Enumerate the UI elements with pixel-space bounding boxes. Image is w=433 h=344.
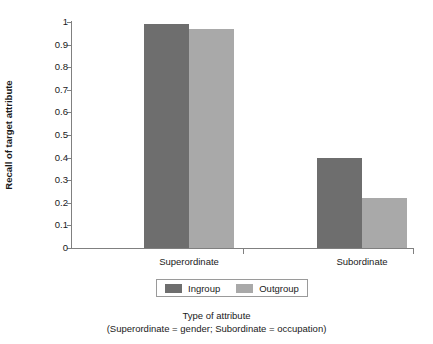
- y-axis-tick-label: 0.4: [55, 151, 68, 164]
- x-axis-title: Type of attribute (Superordinate = gende…: [0, 309, 433, 335]
- x-axis-tick-mark: [243, 249, 244, 254]
- y-axis-tick-label: 0.9: [55, 38, 68, 51]
- y-axis-tick-label: 0.3: [55, 173, 68, 186]
- legend-swatch-icon: [236, 284, 253, 293]
- plot-area: 00.10.20.30.40.50.60.70.80.91: [72, 22, 413, 248]
- y-axis-tick-label: 0.5: [55, 128, 68, 141]
- legend-label: Ingroup: [188, 283, 220, 294]
- x-axis-title-line1: Type of attribute: [182, 310, 250, 321]
- y-axis-tick-label: 0: [63, 241, 68, 254]
- bar-superordinate-outgroup: [189, 29, 234, 248]
- y-axis-tick-label: 0.8: [55, 60, 68, 73]
- y-axis-tick-label: 0.7: [55, 83, 68, 96]
- x-axis-category-label: Subordinate: [302, 256, 422, 267]
- bar-subordinate-outgroup: [362, 198, 407, 248]
- bar-chart-figure: Recall of target attribute 00.10.20.30.4…: [0, 0, 433, 344]
- x-axis-title-line2: (Superordinate = gender; Subordinate = o…: [0, 322, 433, 335]
- x-axis-category-label: Superordinate: [129, 256, 249, 267]
- y-axis-tick-label: 0.2: [55, 196, 68, 209]
- x-axis-tick-mark: [413, 249, 414, 254]
- y-axis-title: Recall of target attribute: [3, 80, 14, 189]
- chart-legend: IngroupOutgroup: [156, 279, 308, 297]
- legend-label: Outgroup: [259, 283, 299, 294]
- y-axis-tick-label: 0.1: [55, 218, 68, 231]
- legend-item: Ingroup: [165, 283, 220, 294]
- legend-swatch-icon: [165, 284, 182, 293]
- bar-subordinate-ingroup: [317, 158, 362, 248]
- legend-item: Outgroup: [236, 283, 299, 294]
- bar-superordinate-ingroup: [144, 24, 189, 248]
- y-axis-tick-label: 0.6: [55, 105, 68, 118]
- y-axis-tick-label: 1: [63, 15, 68, 28]
